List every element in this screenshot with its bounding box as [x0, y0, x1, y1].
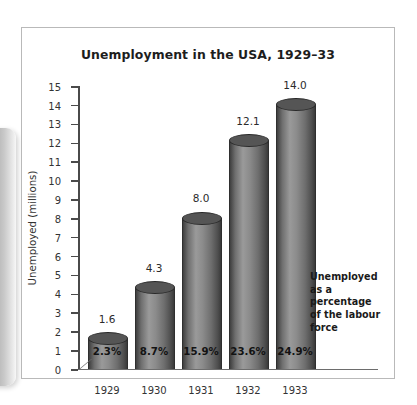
bar-body: [229, 141, 269, 369]
y-axis-tick-label: 5: [55, 270, 61, 281]
bar-value-label: 12.1: [236, 115, 259, 127]
y-axis-tick-mark: 8: [71, 218, 78, 220]
bar-value-label: 4.3: [146, 262, 163, 274]
x-axis-baseline: [78, 369, 378, 371]
bar-top-ellipse: [276, 98, 316, 111]
y-axis-tick-label: 4: [55, 289, 61, 300]
y-axis-tick-mark: 2: [71, 331, 78, 333]
bar-value-label: 1.6: [99, 313, 116, 325]
bar-top-ellipse: [229, 134, 269, 147]
y-axis-tick-label: 10: [48, 176, 61, 187]
y-axis-tick-label: 12: [48, 138, 61, 149]
bar-top-ellipse: [88, 332, 128, 345]
figure-panel: Unemployment in the USA, 1929–33 Unemplo…: [21, 27, 395, 379]
bar-percentage-label: 8.7%: [140, 346, 168, 357]
bar-percentage-label: 23.6%: [230, 346, 265, 357]
bar-percentage-label: 24.9%: [277, 346, 312, 357]
x-axis-tick-label: 1933: [282, 385, 307, 396]
chart-title: Unemployment in the USA, 1929–33: [22, 47, 394, 62]
x-axis-tick-label: 1932: [235, 385, 260, 396]
percentage-annotation: Unemployedas a percentageof the labourfo…: [310, 271, 396, 334]
y-axis-tick-mark: 14: [71, 105, 78, 107]
y-axis-tick-mark: 3: [71, 312, 78, 314]
bar-1932[interactable]: 12.123.6%1932: [229, 141, 267, 369]
y-axis-tick-label: 0: [55, 364, 61, 375]
y-axis-tick-label: 7: [55, 232, 61, 243]
y-axis-tick-label: 13: [48, 119, 61, 130]
y-axis-tick-label: 6: [55, 251, 61, 262]
bar-percentage-label: 15.9%: [183, 346, 218, 357]
y-axis-tick-mark: 13: [71, 124, 78, 126]
y-axis-tick-label: 8: [55, 213, 61, 224]
y-axis-tick-label: 14: [48, 100, 61, 111]
y-axis-title: Unemployed (millions): [27, 170, 38, 285]
y-axis-tick-label: 2: [55, 327, 61, 338]
y-axis-tick-mark: 12: [71, 143, 78, 145]
x-axis-tick-label: 1930: [141, 385, 166, 396]
y-axis-tick-label: 11: [48, 157, 61, 168]
annotation-line: Unemployed: [310, 271, 396, 284]
bar-value-label: 14.0: [283, 79, 306, 91]
bar-1930[interactable]: 4.38.7%1930: [135, 288, 173, 369]
y-axis-tick-mark: 11: [71, 161, 78, 163]
bar-top-ellipse: [135, 281, 175, 294]
y-axis-tick-label: 15: [48, 81, 61, 92]
y-axis-tick-mark: 10: [71, 180, 78, 182]
y-axis-tick-mark: 7: [71, 237, 78, 239]
y-axis-line: [78, 86, 80, 369]
y-axis-tick-mark: 5: [71, 275, 78, 277]
bar-1931[interactable]: 8.015.9%1931: [182, 218, 220, 369]
annotation-line: of the labour: [310, 309, 396, 322]
y-axis-tick-mark: 15: [71, 86, 78, 88]
y-axis-tick-mark: 6: [71, 256, 78, 258]
y-axis-tick-label: 3: [55, 308, 61, 319]
bar-percentage-label: 2.3%: [93, 346, 121, 357]
annotation-line: as a percentage: [310, 284, 396, 309]
y-axis-tick-mark: 9: [71, 199, 78, 201]
x-axis-tick-label: 1931: [188, 385, 213, 396]
y-axis-tick-label: 1: [55, 345, 61, 356]
page-edge-artifact: [0, 128, 16, 386]
x-axis-tick-label: 1929: [94, 385, 119, 396]
bar-value-label: 8.0: [193, 192, 210, 204]
y-axis-tick-mark: 1: [71, 350, 78, 352]
y-axis-tick-label: 9: [55, 194, 61, 205]
bar-top-ellipse: [182, 212, 222, 225]
bar-1933[interactable]: 14.024.9%1933: [276, 105, 314, 369]
annotation-line: force: [310, 322, 396, 335]
y-axis-tick-mark: 4: [71, 294, 78, 296]
